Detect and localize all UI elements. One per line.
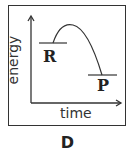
reactant-label: R — [43, 47, 56, 66]
x-axis-label: time — [60, 105, 92, 121]
option-caption: D — [0, 133, 135, 152]
reaction-curve — [53, 25, 102, 75]
y-axis-label: energy — [6, 30, 20, 90]
product-label: P — [97, 76, 109, 95]
